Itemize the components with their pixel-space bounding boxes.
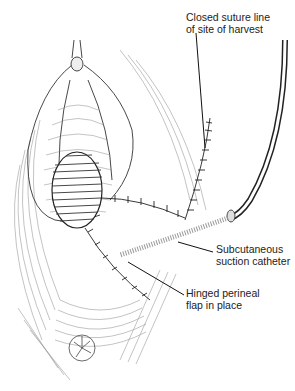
label-suture-line: Closed suture line of site of harvest xyxy=(186,11,270,35)
label-line: Closed suture line xyxy=(186,11,270,23)
suture-leader-line xyxy=(196,33,205,148)
flap-leader-line xyxy=(128,262,184,295)
surgical-illustration xyxy=(0,0,295,391)
label-line: suction catheter xyxy=(216,255,290,267)
label-hinged-flap: Hinged perineal flap in place xyxy=(186,287,260,311)
label-line: flap in place xyxy=(186,299,260,311)
label-line: Subcutaneous xyxy=(216,243,290,255)
label-line: Hinged perineal xyxy=(186,287,260,299)
label-line: of site of harvest xyxy=(186,23,270,35)
illustration-canvas: Closed suture line of site of harvest Su… xyxy=(0,0,295,391)
label-suction-catheter: Subcutaneous suction catheter xyxy=(216,243,290,267)
catheter-leader-line xyxy=(178,242,213,252)
